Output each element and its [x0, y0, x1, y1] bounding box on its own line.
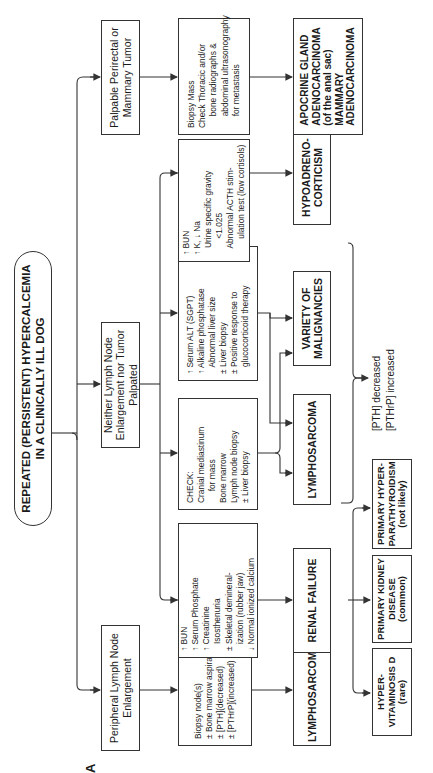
test-biopsy-mass-text: Biopsy Mass Check Thoracic and/or bone r…	[186, 15, 241, 128]
test-renal-text: ↑ BUN ↑ Serum Phosphate ↑ Creatinine Iso…	[179, 558, 257, 651]
test-adrenal: ↑ BUN ↑ K, ↓ Na Urine specific gravity <…	[178, 139, 250, 262]
dx-renal-failure: RENAL FAILURE	[293, 548, 331, 653]
cause-hyperpara-text: PRIMARY HYPER- PARATHYROIDISM (not likel…	[376, 461, 409, 546]
cause-primary-hyperparathyroidism: PRIMARY HYPER- PARATHYROIDISM (not likel…	[372, 459, 412, 549]
title-hypercalcemia: REPEATED (PERSISTENT) HYPERCALCEMIA IN A…	[14, 251, 52, 526]
test-adrenal-text: ↑ BUN ↑ K, ↓ Na Urine specific gravity <…	[181, 145, 248, 255]
hypercalcemia-flowchart: REPEATED (PERSISTENT) HYPERCALCEMIA IN A…	[0, 0, 433, 773]
test-liver-text: ↑ Serum ALT (SGPT) ↑ Alkaline phosphatas…	[185, 286, 252, 374]
branch-palpable-text: Palpable Perirectal or Mammary Tumor	[108, 27, 133, 127]
branch-neither-text: Neither Lymph Node Enlargement nor Tumor…	[102, 330, 140, 440]
dx-hypoadreno-text: HYPOADRENO- CORTICISM	[300, 138, 324, 217]
malignancy-marker-label: [PTH] decreased [PTHrP] increased	[370, 349, 397, 431]
test-check-mediastinum: CHECK: Cranial mediastinum for mass Bone…	[178, 398, 258, 510]
title-text: REPEATED (PERSISTENT) HYPERCALCEMIA IN A…	[19, 264, 48, 512]
cause-primary-kidney-disease: PRIMARY KIDNEY DISEASE (common)	[372, 555, 412, 643]
branch-neither-palpated: Neither Lymph Node Enlargement nor Tumor…	[101, 322, 140, 448]
dx-hypoadrenocorticism: HYPOADRENO- CORTICISM	[293, 130, 331, 225]
test-lymph-node-text: Biopsy node(s) ± Bone marrow aspirate ± …	[193, 650, 237, 739]
cause-kidney-text: PRIMARY KIDNEY DISEASE (common)	[376, 558, 409, 640]
cause-hypervitaminosis-d: HYPER- VITAMINOSIS D (rare)	[372, 648, 412, 736]
dx-variety-malignancies: VARIETY OF MALIGNANCIES	[293, 271, 331, 366]
branch-palpable-tumor: Palpable Perirectal or Mammary Tumor	[101, 20, 140, 135]
dx-lymphosarcoma-neither: LYMPHOSARCOMA	[293, 394, 331, 505]
dx-lymphosarcoma-peripheral-text: LYMPHOSARCOMA	[306, 644, 318, 742]
dx-variety-text: VARIETY OF MALIGNANCIES	[300, 278, 324, 359]
branch-peripheral-text: Peripheral Lymph Node Enlargement	[108, 633, 133, 743]
branch-peripheral-lymph-node: Peripheral Lymph Node Enlargement	[101, 625, 140, 751]
panel-letter: A	[83, 764, 98, 773]
test-renal: ↑ BUN ↑ Serum Phosphate ↑ Creatinine Iso…	[178, 523, 258, 658]
dx-apocrine-text: APOCRINE GLAND ADENOCARCINOMA (of the an…	[299, 27, 357, 125]
dx-lymphosarcoma-neither-text: LYMPHOSARCOMA	[306, 400, 318, 498]
dx-apocrine-mammary: APOCRINE GLAND ADENOCARCINOMA (of the an…	[293, 18, 363, 135]
dx-renal-failure-text: RENAL FAILURE	[306, 559, 318, 643]
dx-lymphosarcoma-peripheral: LYMPHOSARCOMA	[293, 640, 331, 746]
test-check-text: CHECK: Cranial mediastinum for mass Bone…	[185, 427, 252, 503]
cause-hypervitaminosis-text: HYPER- VITAMINOSIS D (rare)	[376, 657, 409, 728]
test-biopsy-mass: Biopsy Mass Check Thoracic and/or bone r…	[178, 18, 250, 135]
test-liver: ↑ Serum ALT (SGPT) ↑ Alkaline phosphatas…	[178, 246, 258, 381]
